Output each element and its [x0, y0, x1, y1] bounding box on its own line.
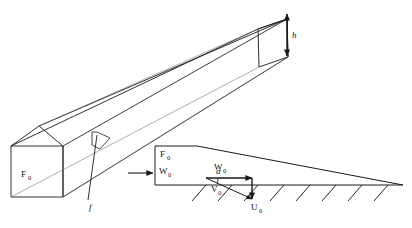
detail-leader-label: f [89, 202, 93, 212]
section-relvel-subscript: 0 [168, 171, 171, 178]
angle-alpha-arc [217, 178, 218, 183]
vector-u-label: U 0 [251, 202, 262, 214]
section-relvel-letter: W [159, 166, 168, 176]
wedge-relative-velocity-label: W 0 [159, 166, 171, 178]
detail-leader-line [88, 135, 97, 200]
gap-dimension: h [287, 14, 297, 56]
vector-w-letter: W [214, 162, 223, 172]
wedge-section [155, 146, 403, 185]
beam-side-face [63, 19, 288, 197]
beam-3d-body [11, 19, 288, 197]
wedge-force-label: F 0 [160, 149, 170, 161]
velocity-triangle: α W 0 V 0 U 0 [206, 162, 262, 214]
section-force-letter: F [160, 149, 165, 159]
wedge-outline [155, 146, 403, 185]
vector-u-subscript: 0 [259, 207, 262, 214]
vector-v-subscript: 0 [218, 189, 221, 196]
ground-hatching-icon [192, 185, 388, 201]
beam-construction-lines [11, 29, 288, 197]
beam-face-force-letter: F [21, 169, 26, 179]
vector-v-label: V 0 [211, 184, 221, 196]
beam-top-face [11, 19, 287, 146]
beam-face-force-subscript: 0 [28, 174, 31, 181]
beam-face-force-label: F 0 [21, 169, 31, 181]
vector-v-letter: V [211, 184, 218, 194]
beam-end-face [11, 146, 63, 197]
vector-u-letter: U [251, 202, 258, 212]
figure-canvas: F 0 h f F 0 W 0 [0, 0, 412, 228]
vector-w-subscript: 0 [223, 167, 226, 174]
gap-height-label: h [292, 30, 297, 40]
detail-callout [88, 132, 110, 200]
technical-diagram-svg: F 0 h f F 0 W 0 [0, 0, 412, 228]
section-force-subscript: 0 [167, 154, 170, 161]
